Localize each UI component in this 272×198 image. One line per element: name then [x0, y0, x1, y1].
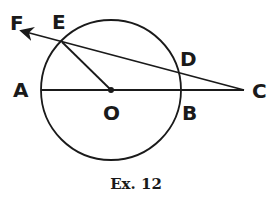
label-a: A — [13, 78, 29, 102]
label-b: B — [182, 101, 197, 125]
label-e: E — [52, 10, 66, 34]
label-f: F — [10, 11, 24, 35]
caption: Ex. 12 — [110, 175, 162, 193]
center-point-o — [108, 87, 114, 93]
radius-eo — [62, 42, 111, 90]
label-c: C — [252, 79, 267, 103]
label-d: D — [180, 47, 197, 71]
ray-cf-secant — [22, 31, 244, 90]
label-o: O — [103, 101, 120, 125]
geometry-diagram: F E D A O B C Ex. 12 — [0, 0, 272, 198]
